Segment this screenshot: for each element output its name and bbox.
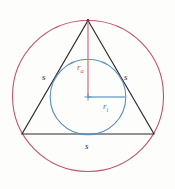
circumradius-label-subscript: a xyxy=(81,67,84,74)
geometry-figure: s s s ra ri xyxy=(0,0,175,189)
apex-vertex-dot xyxy=(87,19,90,22)
circumradius-label: ra xyxy=(77,63,84,74)
center-point-marker xyxy=(85,94,92,101)
inradius-label-subscript: i xyxy=(107,106,109,113)
geometry-diagram xyxy=(0,0,175,189)
side-label-bottom: s xyxy=(85,142,89,151)
inradius-label: ri xyxy=(103,102,108,113)
side-label-right: s xyxy=(124,73,128,82)
side-label-left: s xyxy=(42,73,46,82)
